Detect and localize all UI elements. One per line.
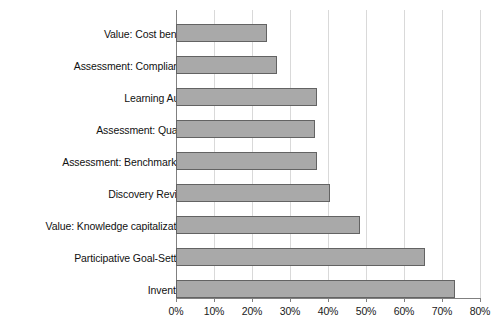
- x-axis-tick-label: 10%: [204, 305, 224, 317]
- x-axis-tick: [252, 298, 253, 302]
- y-axis-tick-label: Assessment: Compliance: [74, 60, 190, 72]
- plot-area: [176, 10, 480, 298]
- bars-group: [176, 10, 480, 298]
- bar-row: [176, 248, 480, 266]
- y-axis-tick-label: Participative Goal-Setting: [74, 252, 190, 264]
- bar: [176, 184, 330, 202]
- bar-row: [176, 24, 480, 42]
- bar: [176, 88, 317, 106]
- x-axis-tick: [366, 298, 367, 302]
- x-axis-tick: [214, 298, 215, 302]
- x-axis-tick: [290, 298, 291, 302]
- bar-row: [176, 184, 480, 202]
- bar-row: [176, 56, 480, 74]
- x-axis-tick-label: 40%: [318, 305, 338, 317]
- y-axis-tick-label: Assessment: Benchmarking: [62, 156, 190, 168]
- bar-chart: Value: Cost benefit Assessment: Complian…: [0, 0, 499, 335]
- bar: [176, 120, 315, 138]
- x-axis-tick-label: 80%: [470, 305, 490, 317]
- x-axis-tick: [480, 298, 481, 302]
- x-axis-tick-label: 70%: [432, 305, 452, 317]
- bar: [176, 248, 425, 266]
- x-axis-tick-label: 0%: [169, 305, 184, 317]
- x-axis-tick: [176, 298, 177, 302]
- x-axis-tick: [442, 298, 443, 302]
- bar: [176, 216, 360, 234]
- bar-row: [176, 120, 480, 138]
- gridline: [480, 10, 481, 298]
- x-axis-tick-label: 60%: [394, 305, 414, 317]
- x-axis-tick: [328, 298, 329, 302]
- x-axis-tick-label: 20%: [242, 305, 262, 317]
- bar-row: [176, 88, 480, 106]
- x-axis-tick-label: 30%: [280, 305, 300, 317]
- y-axis-tick-label: Value: Knowledge capitalization: [46, 220, 190, 232]
- bar: [176, 152, 317, 170]
- bar: [176, 280, 455, 298]
- x-axis-tick: [404, 298, 405, 302]
- bar: [176, 56, 277, 74]
- bar: [176, 24, 267, 42]
- bar-row: [176, 280, 480, 298]
- x-axis-tick-label: 50%: [356, 305, 376, 317]
- bar-row: [176, 152, 480, 170]
- bar-row: [176, 216, 480, 234]
